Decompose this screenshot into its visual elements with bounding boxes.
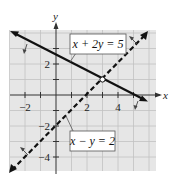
x-tick-4: 4: [115, 101, 121, 113]
graph-figure: −2 2 4 2 −2 −4 x y x + 2y = 5 x − y = 2: [0, 0, 171, 184]
y-axis-label: y: [52, 10, 58, 22]
intersection-point: [100, 77, 105, 82]
x-axis-label: x: [162, 89, 168, 101]
x-axis-arrow-icon: [155, 93, 162, 98]
equation-label-1: x + 2y = 5: [72, 37, 124, 51]
x-tick-neg2: −2: [19, 101, 31, 113]
equation-label-2: x − y = 2: [69, 134, 115, 148]
y-axis-arrow-icon: [54, 22, 59, 29]
y-tick-neg2: −2: [38, 120, 50, 132]
y-tick-neg4: −4: [38, 151, 50, 163]
y-tick-2: 2: [45, 58, 51, 70]
x-tick-2: 2: [84, 101, 90, 113]
